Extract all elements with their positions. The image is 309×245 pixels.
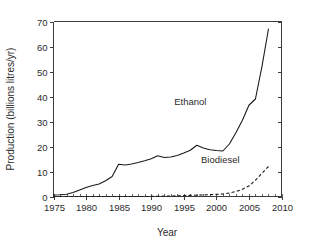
x-tick-label: 2005	[239, 202, 260, 213]
x-tick-label: 1975	[44, 202, 65, 213]
y-tick-label: 70	[37, 17, 48, 28]
y-axis-title: Production (billions litres/yr)	[5, 48, 16, 171]
chart-figure: 010203040506070 197519801985199019952000…	[0, 0, 309, 245]
series-label-biodiesel: Biodiesel	[201, 154, 240, 165]
y-tick-label: 50	[37, 67, 48, 78]
x-tick-label: 1995	[174, 202, 195, 213]
x-tick-label: 1990	[141, 202, 162, 213]
y-tick-label: 20	[37, 142, 48, 153]
y-tick-label: 30	[37, 117, 48, 128]
x-tick-label: 1985	[109, 202, 130, 213]
series-label-ethanol: Ethanol	[174, 96, 206, 107]
x-axis-title: Year	[157, 227, 178, 238]
x-tick-label: 2010	[272, 202, 293, 213]
y-tick-label: 40	[37, 92, 48, 103]
production-line-chart: 010203040506070 197519801985199019952000…	[0, 0, 309, 245]
y-tick-label: 10	[37, 167, 48, 178]
x-tick-label: 2000	[206, 202, 227, 213]
x-tick-label: 1980	[76, 202, 97, 213]
y-tick-label: 60	[37, 42, 48, 53]
